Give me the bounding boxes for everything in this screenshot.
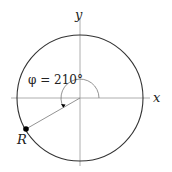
point-label: R [17,133,27,146]
angle-label: φ = 210° [28,74,83,86]
point-r [23,126,29,132]
x-axis-label: x [153,91,160,104]
unit-circle-diagram: y x φ = 210° R [0,0,172,172]
radius-line [26,98,80,129]
y-axis-label: y [75,8,82,21]
